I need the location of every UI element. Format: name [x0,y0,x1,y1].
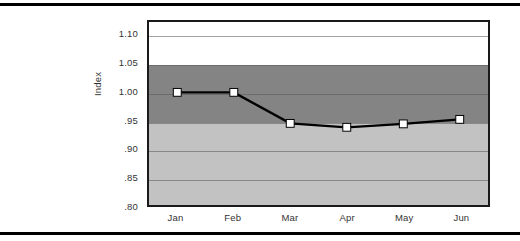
plot-area [147,20,490,207]
data-point-marker [456,115,464,123]
data-series-line [149,22,488,205]
data-point-marker [230,88,238,96]
y-tick-label: 1.00 [104,86,138,97]
x-tick-label: Apr [327,212,367,223]
y-axis-title: Index [92,72,103,96]
series-path [177,92,459,127]
data-point-marker [173,88,181,96]
data-point-marker [286,119,294,127]
figure-container: Index 1.101.051.00.95.90.85.80 JanFebMar… [0,0,520,241]
y-tick-label: .95 [104,115,138,126]
x-tick-label: Jan [156,212,196,223]
y-tick-label: .90 [104,143,138,154]
top-rule [0,3,520,6]
x-tick-label: May [384,212,424,223]
x-tick-label: Feb [213,212,253,223]
y-tick-label: .80 [104,201,138,212]
bottom-rule [0,232,520,235]
x-tick-label: Jun [441,212,481,223]
x-tick-label: Mar [270,212,310,223]
y-tick-label: 1.05 [104,57,138,68]
plot-frame [147,20,490,207]
data-point-marker [399,120,407,128]
y-tick-label: .85 [104,172,138,183]
data-point-marker [343,123,351,131]
y-tick-label: 1.10 [104,28,138,39]
